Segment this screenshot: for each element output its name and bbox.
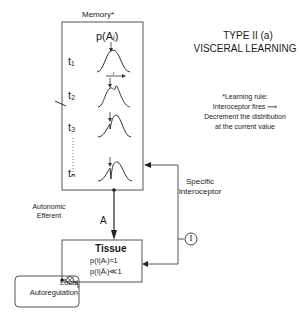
specific-label-line2: Interoceptor xyxy=(164,187,236,197)
time-step-t3: t₃ xyxy=(68,121,76,133)
tissue-prob-given-not-a: p(I|Āᵢ)≪1 xyxy=(90,267,122,276)
diagram-title-line1: TYPE II (a) xyxy=(198,30,298,41)
memory-tick-mark xyxy=(55,101,66,106)
interoceptor-symbol-label: I xyxy=(185,233,197,243)
tissue-label: Tissue xyxy=(95,243,127,254)
learning-rule-line1: Interoceptor fires ⟹ xyxy=(190,102,300,112)
efferent-signal-label: A xyxy=(100,215,107,226)
distribution-t2 xyxy=(98,78,130,107)
tissue-prob-given-a: p(I|Aᵢ)≈1 xyxy=(90,256,118,265)
efferent-label-line2: Efferent xyxy=(20,211,78,220)
distribution-tn xyxy=(98,157,132,181)
distribution-t1 xyxy=(97,42,130,78)
specific-interoceptor-label: Specific Interoceptor xyxy=(164,177,236,197)
time-step-tn: tₙ xyxy=(68,167,75,180)
local-autoregulation-label: Local Autoregulation xyxy=(10,278,78,298)
local-label-line2: Autoregulation xyxy=(10,288,78,298)
distribution-t3 xyxy=(98,112,131,137)
diagram-title-line2: VISCERAL LEARNING xyxy=(190,43,300,54)
specific-label-line1: Specific xyxy=(164,177,236,187)
memory-label: Memory* xyxy=(82,10,114,19)
autonomic-efferent-label: Autonomic Efferent xyxy=(20,202,78,220)
efferent-label-line1: Autonomic xyxy=(20,202,78,211)
distribution-label: p(Aᵢ) xyxy=(96,30,119,42)
learning-rule-line2: Decrement the distribution xyxy=(190,112,300,122)
time-step-t1: t₁ xyxy=(68,55,75,67)
memory-box xyxy=(62,22,143,190)
learning-rule: *Learning rule: Interoceptor fires ⟹ Dec… xyxy=(190,92,300,132)
learning-rule-line3: at the current value xyxy=(190,122,300,132)
time-step-t2: t₂ xyxy=(68,89,75,101)
learning-rule-heading: *Learning rule: xyxy=(190,92,300,102)
local-label-line1: Local xyxy=(10,278,78,288)
